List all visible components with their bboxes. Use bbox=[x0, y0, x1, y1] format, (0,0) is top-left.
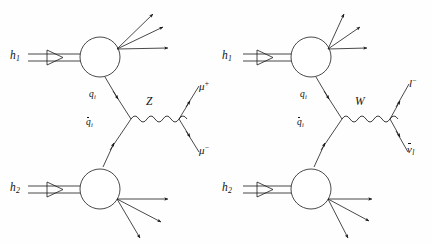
hadron-2-line-left bbox=[28, 182, 82, 197]
diagram-canvas bbox=[0, 0, 432, 245]
hadron-1-blob-right bbox=[291, 37, 331, 77]
hadron-1-line-right bbox=[243, 50, 292, 65]
label-lepton-minus: l− bbox=[409, 77, 417, 89]
label-muon-minus: μ− bbox=[199, 144, 209, 156]
lepton-lines-right bbox=[390, 84, 409, 152]
label-antiquark-left: qi bbox=[86, 118, 93, 128]
hadron-2-blob-left bbox=[80, 169, 120, 209]
label-hadron-1-right: h1 bbox=[222, 50, 232, 63]
remnant-jets-upper-right bbox=[328, 14, 367, 49]
w-propagator-wave bbox=[342, 116, 398, 122]
diagram-z-production bbox=[28, 14, 199, 238]
label-muon-plus: μ+ bbox=[199, 80, 209, 92]
remnant-jets-lower-left bbox=[117, 199, 168, 238]
label-antineutrino: νl bbox=[407, 144, 414, 157]
label-hadron-1-left: h1 bbox=[10, 50, 20, 63]
label-boson-w: W bbox=[355, 96, 365, 108]
hadron-2-line-right bbox=[243, 182, 292, 197]
label-quark-right: qi bbox=[300, 90, 307, 100]
label-quark-left: qi bbox=[89, 90, 96, 100]
muon-lines-left bbox=[179, 86, 199, 152]
feynman-figure: h1 h2 qi qi Z μ+ μ− h1 h2 qi qi W l− νl bbox=[0, 0, 432, 245]
hadron-1-line-left bbox=[28, 50, 82, 65]
label-hadron-2-right: h2 bbox=[222, 182, 232, 195]
label-boson-z: Z bbox=[146, 96, 152, 108]
label-antiquark-right: qi bbox=[297, 118, 304, 128]
hadron-2-blob-right bbox=[291, 169, 331, 209]
remnant-jets-lower-right bbox=[328, 199, 372, 238]
remnant-jets-upper-left bbox=[117, 14, 168, 49]
hadron-1-blob-left bbox=[80, 37, 120, 77]
z-propagator-wave bbox=[131, 116, 187, 122]
label-hadron-2-left: h2 bbox=[10, 182, 20, 195]
diagram-w-production bbox=[243, 14, 409, 238]
